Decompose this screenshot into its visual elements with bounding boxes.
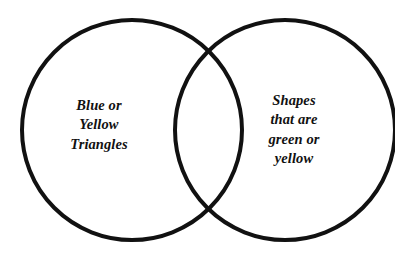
left-set-label-line-3: Triangles (34, 135, 164, 154)
right-set-label: Shapes that are green or yellow (231, 91, 357, 168)
left-set-label-line-1: Blue or (34, 96, 164, 115)
left-set-label-line-2: Yellow (34, 115, 164, 134)
right-set-label-line-4: yellow (231, 149, 357, 168)
right-set-label-line-3: green or (231, 130, 357, 149)
venn-diagram-canvas: Blue or Yellow Triangles Shapes that are… (0, 0, 395, 258)
right-set-label-line-2: that are (231, 110, 357, 129)
right-set-label-line-1: Shapes (231, 91, 357, 110)
left-set-label: Blue or Yellow Triangles (34, 96, 164, 154)
